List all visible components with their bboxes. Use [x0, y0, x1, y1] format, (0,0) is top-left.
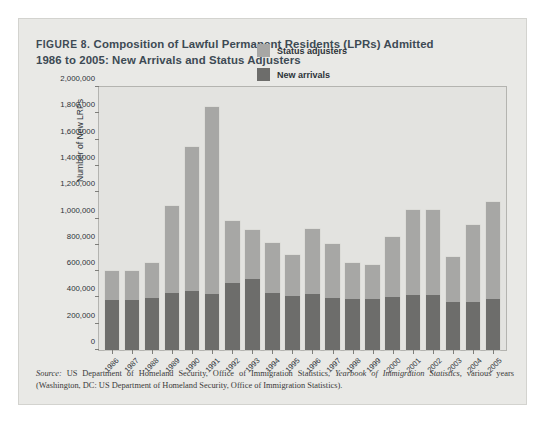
bar-segment-new-arrivals — [245, 279, 259, 350]
source-lead: Source: — [36, 369, 62, 378]
stacked-bar[interactable] — [165, 206, 179, 350]
stacked-bar[interactable] — [265, 243, 279, 350]
bar-segment-new-arrivals — [225, 283, 239, 350]
legend-label-status-adjusters: Status adjusters — [277, 46, 347, 56]
stacked-bar[interactable] — [105, 271, 119, 350]
bar-segment-status-adjusters — [185, 147, 199, 291]
bar-column[interactable] — [282, 87, 302, 350]
bar-segment-new-arrivals — [426, 295, 440, 350]
bar-segment-status-adjusters — [486, 202, 500, 299]
y-tick-label: 200,000 — [67, 310, 95, 319]
y-tick-label: 0 — [91, 337, 95, 346]
stacked-bar[interactable] — [305, 229, 319, 350]
bar-segment-status-adjusters — [305, 229, 319, 294]
y-tick-label: 800,000 — [67, 231, 95, 240]
y-tick-label: 2,000,000 — [60, 74, 95, 83]
bar-segment-new-arrivals — [446, 302, 460, 350]
bar-segment-new-arrivals — [285, 296, 299, 350]
stacked-bar[interactable] — [245, 230, 259, 350]
plot-inner — [99, 87, 506, 350]
stacked-bar[interactable] — [345, 263, 359, 350]
bar-segment-new-arrivals — [466, 302, 480, 350]
bar-segment-status-adjusters — [125, 271, 139, 301]
bar-column[interactable] — [323, 87, 343, 350]
bar-column[interactable] — [182, 87, 202, 350]
bar-column[interactable] — [162, 87, 182, 350]
bar-series-group — [99, 87, 506, 350]
chart-plot-area: Number of New LRPs 0200,000400,000600,00… — [98, 86, 507, 351]
source-note: Source: US Department of Homeland Securi… — [36, 368, 514, 391]
bar-column[interactable] — [262, 87, 282, 350]
legend-item: Status adjusters — [257, 44, 347, 57]
bar-segment-new-arrivals — [385, 297, 399, 350]
bar-segment-new-arrivals — [185, 291, 199, 350]
stacked-bar[interactable] — [486, 202, 500, 350]
stacked-bar[interactable] — [325, 244, 339, 350]
stacked-bar[interactable] — [406, 210, 420, 350]
bar-column[interactable] — [403, 87, 423, 350]
legend-item: New arrivals — [257, 68, 347, 81]
bar-segment-status-adjusters — [466, 225, 480, 302]
legend-label-new-arrivals: New arrivals — [277, 70, 330, 80]
bar-column[interactable] — [443, 87, 463, 350]
bar-segment-status-adjusters — [265, 243, 279, 293]
bar-column[interactable] — [202, 87, 222, 350]
bar-segment-new-arrivals — [305, 294, 319, 350]
bar-column[interactable] — [383, 87, 403, 350]
bar-column[interactable] — [463, 87, 483, 350]
bar-column[interactable] — [242, 87, 262, 350]
bar-column[interactable] — [343, 87, 363, 350]
stacked-bar[interactable] — [125, 271, 139, 351]
bar-segment-new-arrivals — [165, 293, 179, 350]
stacked-bar[interactable] — [225, 221, 239, 350]
source-text-1: US Department of Homeland Security, Offi… — [62, 369, 335, 378]
chart-legend: Status adjusters New arrivals — [257, 44, 347, 92]
bar-column[interactable] — [423, 87, 443, 350]
bar-segment-status-adjusters — [245, 230, 259, 279]
bar-segment-status-adjusters — [385, 237, 399, 297]
stacked-bar[interactable] — [205, 107, 219, 350]
bar-segment-status-adjusters — [446, 257, 460, 303]
bar-segment-status-adjusters — [225, 221, 239, 283]
stacked-bar[interactable] — [185, 147, 199, 350]
bar-segment-new-arrivals — [105, 300, 119, 350]
bar-segment-status-adjusters — [345, 263, 359, 299]
bar-segment-new-arrivals — [125, 300, 139, 350]
bar-segment-new-arrivals — [145, 298, 159, 350]
stacked-bar[interactable] — [385, 237, 399, 350]
bar-segment-new-arrivals — [205, 294, 219, 350]
bar-segment-status-adjusters — [205, 107, 219, 294]
bar-segment-status-adjusters — [285, 255, 299, 296]
bar-column[interactable] — [102, 87, 122, 350]
bar-segment-new-arrivals — [406, 295, 420, 350]
stacked-bar[interactable] — [446, 257, 460, 350]
y-tick-label: 1,600,000 — [60, 126, 95, 135]
bar-column[interactable] — [363, 87, 383, 350]
bar-segment-new-arrivals — [265, 293, 279, 350]
stacked-bar[interactable] — [365, 265, 379, 350]
bar-segment-new-arrivals — [325, 298, 339, 350]
bar-segment-status-adjusters — [325, 244, 339, 298]
bar-column[interactable] — [483, 87, 503, 350]
stacked-bar[interactable] — [285, 255, 299, 350]
stacked-bar[interactable] — [426, 210, 440, 350]
source-publication-title: Yearbook of Immigration Statistics, — [335, 369, 462, 378]
bar-column[interactable] — [142, 87, 162, 350]
bar-segment-new-arrivals — [345, 299, 359, 350]
y-tick-label: 1,000,000 — [60, 205, 95, 214]
stacked-bar[interactable] — [466, 225, 480, 350]
bar-column[interactable] — [302, 87, 322, 350]
bar-segment-status-adjusters — [105, 271, 119, 300]
bar-segment-status-adjusters — [365, 265, 379, 299]
bar-column[interactable] — [122, 87, 142, 350]
y-tick-label: 1,800,000 — [60, 100, 95, 109]
bar-column[interactable] — [222, 87, 242, 350]
bar-segment-new-arrivals — [486, 299, 500, 350]
legend-swatch-status-adjusters — [257, 44, 270, 57]
bar-segment-status-adjusters — [145, 263, 159, 299]
stacked-bar[interactable] — [145, 263, 159, 350]
bar-segment-new-arrivals — [365, 299, 379, 350]
y-tick-label: 400,000 — [67, 284, 95, 293]
y-tick-label: 600,000 — [67, 258, 95, 267]
figure-panel: FIGURE 8. Composition of Lawful Permanen… — [18, 18, 527, 405]
